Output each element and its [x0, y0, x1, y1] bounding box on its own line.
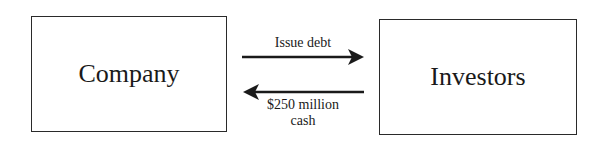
cash-label: $250 million cash [242, 97, 364, 129]
issue-debt-text: Issue debt [275, 35, 331, 50]
cash-amount-text: $250 million [242, 97, 364, 113]
arrow-right-issue-debt [242, 49, 364, 65]
issue-debt-label: Issue debt [242, 35, 364, 51]
cash-word-text: cash [242, 113, 364, 129]
